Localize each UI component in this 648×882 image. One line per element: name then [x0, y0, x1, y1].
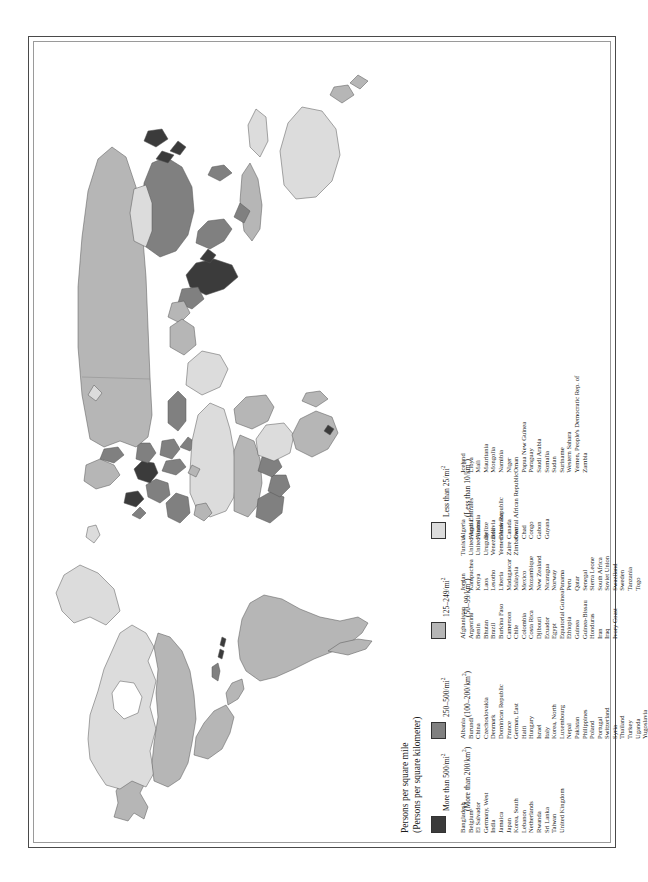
legend-label-line1: Less than 25/mi [441, 468, 450, 517]
legend-country: Pakistan [572, 684, 580, 739]
legend-country: Saudi Arabia [534, 377, 542, 473]
legend-country: India [489, 788, 497, 833]
legend-country: Argentina [466, 591, 474, 639]
legend-country: Mali [474, 377, 482, 473]
legend-label-sup1: 2 [440, 753, 446, 756]
legend-country: Madagascar [504, 556, 512, 591]
legend-label-line1: 125–249/mi [441, 580, 450, 617]
legend-label-sup1: 2 [440, 678, 446, 681]
legend-title-line2: (Persons per square kilometer) [411, 717, 421, 833]
legend-country: Central African Republic [512, 473, 520, 539]
legend-category-high: 250–500/mi2 (100–200/km2) Albania Burund… [430, 639, 648, 739]
legend-country: German, East [512, 684, 520, 739]
legend-label-sup1: 2 [440, 578, 446, 581]
legend-country: Algeria [459, 473, 467, 539]
legend-country: France [504, 684, 512, 739]
legend-country: Ivory Coast [610, 591, 618, 639]
legend-country: United Kingdom [557, 788, 565, 833]
legend-country: Lebanon [519, 788, 527, 833]
legend-country: Papua New Guinea [519, 377, 527, 473]
legend-category-header: Less than 25/mi2 (Less than 10/km2) [430, 443, 456, 539]
legend-country: Luxembourg [557, 684, 565, 739]
legend-country: Guyana [542, 473, 550, 539]
legend-swatch-medium [431, 622, 446, 639]
legend-country: Western Sahara [565, 377, 573, 473]
legend-country: Swaziland [610, 556, 618, 591]
legend-country: Chad [519, 473, 527, 539]
legend-country: Peru [565, 556, 573, 591]
legend-country: Burkina Faso [496, 591, 504, 639]
legend-country: Korea, North [550, 684, 558, 739]
legend-category-header: 250–500/mi2 (100–200/km2) [430, 639, 456, 739]
legend-category-header: More than 500/mi2 (More than 200/km2) [430, 739, 456, 833]
legend-country: Hungary [527, 684, 535, 739]
legend-country: Iraq [603, 591, 611, 639]
map-legend: Persons per square mile(Persons per squa… [400, 43, 610, 833]
legend-country: Korea, South [512, 788, 520, 833]
legend-country: Japan [504, 788, 512, 833]
legend-country: Belgium [466, 788, 474, 833]
legend-category-medium: 125–249/mi2 (50–99/km2) Afghanistan Arge… [430, 539, 641, 639]
legend-country: Togo [633, 556, 641, 591]
legend-country: Qatar [572, 556, 580, 591]
legend-country: Israel [534, 684, 542, 739]
legend-country: Colombia [519, 591, 527, 639]
legend-country: Bolivia [489, 473, 497, 539]
legend-country: Sweden [618, 556, 626, 591]
legend-country: Canada [504, 473, 512, 539]
legend-country: Lesotho [489, 556, 497, 591]
legend-country: Ecuador [542, 591, 550, 639]
legend-label-sup1: 2 [440, 466, 446, 469]
legend-country: Afghanistan [459, 591, 467, 639]
legend-country: Thailand [618, 684, 626, 739]
legend-country: Angola [466, 473, 474, 539]
legend-country: Sudan [550, 377, 558, 473]
legend-country: Nicaragua [542, 556, 550, 591]
legend-country-columns: Algeria Angola Australia Belize Bolivia … [459, 443, 588, 539]
legend-country: Iran [595, 591, 603, 639]
legend-country: Germany, West [481, 788, 489, 833]
legend-country: Nepal [565, 684, 573, 739]
legend-category-header: 125–249/mi2 (50–99/km2) [430, 539, 456, 639]
legend-country-column: Afghanistan Argentina Benin Bhutan Brazi… [459, 591, 641, 639]
legend-country: Panama [557, 556, 565, 591]
legend-country: Somalia [542, 377, 550, 473]
legend-country: Oman [512, 377, 520, 473]
legend-country: Botswana [496, 473, 504, 539]
legend-country: Taiwan [550, 788, 558, 833]
legend-country-column: Algeria Angola Australia Belize Bolivia … [459, 473, 588, 539]
legend-country: Yemen, People's Democratic Rep. of [572, 377, 580, 473]
legend-country: Malaysia [512, 556, 520, 591]
legend-country: Philippines [580, 684, 588, 739]
legend-country: Haiti [519, 684, 527, 739]
legend-country: El Salvador [474, 788, 482, 833]
legend-country: Ethiopia [565, 591, 573, 639]
legend-country: Kenya [474, 556, 482, 591]
legend-country: Rwanda [534, 788, 542, 833]
legend-country: Burundi [466, 684, 474, 739]
legend-country: Gabon [534, 473, 542, 539]
legend-country: Benin [474, 591, 482, 639]
legend-country: Belize [481, 473, 489, 539]
legend-country: Portugal [595, 684, 603, 739]
legend-country: Dominican Republic [496, 684, 504, 739]
legend-title-line1: Persons per square mile [400, 743, 410, 834]
legend-country: Netherlands [527, 788, 535, 833]
legend-country: Czechoslovakia [481, 684, 489, 739]
legend-country: Mauritania [481, 377, 489, 473]
legend-country: Egypt [550, 591, 558, 639]
legend-country-columns: Albania Burundi China Czechoslovakia Den… [459, 639, 648, 739]
legend-country-columns: Afghanistan Argentina Benin Bhutan Brazi… [459, 539, 641, 639]
legend-country: Denmark [489, 684, 497, 739]
legend-country: Bhutan [481, 591, 489, 639]
legend-country: Albania [459, 684, 467, 739]
legend-swatch-high [431, 722, 446, 739]
legend-country: New Zealand [534, 556, 542, 591]
legend-country-columns: Bangladesh Belgium El Salvador Germany, … [459, 739, 565, 833]
legend-country: Tanzania [626, 556, 634, 591]
legend-country: Cameroon [504, 591, 512, 639]
legend-categories: More than 500/mi2 (More than 200/km2) Ba… [430, 43, 648, 833]
legend-country: Jamaica [496, 788, 504, 833]
legend-country: Honduras [588, 591, 596, 639]
